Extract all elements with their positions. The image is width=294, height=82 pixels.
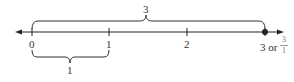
tick-label-0: 0 (29, 39, 35, 50)
point-3-dot (262, 29, 268, 35)
bottom-brace-label: 1 (67, 65, 73, 76)
tick-label-1: 1 (106, 39, 112, 50)
right-arrow-icon (277, 30, 284, 35)
top-brace (32, 15, 265, 29)
tick-label-2: 2 (184, 39, 190, 50)
bottom-brace (32, 50, 109, 63)
fraction-3-over-1: 3 1 (280, 36, 288, 55)
fraction-numerator: 3 (282, 35, 286, 44)
fraction-denominator: 1 (282, 46, 286, 55)
left-arrow-icon (15, 30, 22, 35)
top-brace-label: 3 (143, 4, 149, 15)
tick-label-3: 3 or (260, 42, 277, 53)
